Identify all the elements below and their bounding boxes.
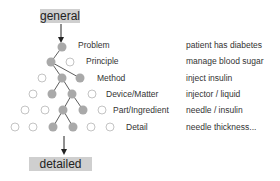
example-detail: needle thickness...	[186, 122, 256, 132]
level-label-principle: Principle	[86, 56, 119, 66]
bottom-arrow	[61, 136, 67, 155]
top-arrow	[58, 24, 64, 43]
open-nodes	[11, 58, 114, 131]
example-problem: patient has diabetes	[186, 40, 262, 50]
example-method: inject insulin	[186, 73, 232, 83]
example-device: injector / liquid	[186, 89, 240, 99]
level-label-part: Part/Ingredient	[113, 105, 169, 115]
level-label-detail: Detail	[126, 122, 148, 132]
detailed-box: detailed	[29, 157, 92, 171]
filled-nodes	[47, 43, 88, 132]
level-label-device: Device/Matter	[106, 89, 158, 99]
example-principle: manage blood sugar	[186, 56, 264, 66]
example-part: needle / insulin	[186, 105, 243, 115]
level-label-method: Method	[97, 73, 125, 83]
level-label-problem: Problem	[78, 40, 110, 50]
